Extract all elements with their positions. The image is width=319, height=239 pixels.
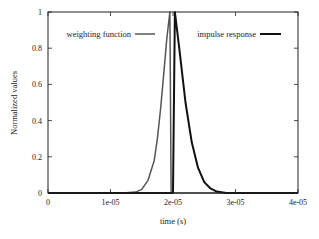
x-axis: 01e-052e-053e-054e-05 bbox=[46, 12, 307, 207]
x-tick-label: 1e-05 bbox=[101, 198, 119, 207]
chart: 01e-052e-053e-054e-05 00.20.40.60.81 wei… bbox=[0, 0, 319, 239]
y-tick-label: 0.4 bbox=[32, 117, 42, 126]
y-tick-label: 0.6 bbox=[32, 80, 42, 89]
y-tick-label: 1 bbox=[38, 8, 42, 17]
y-tick-label: 0 bbox=[38, 189, 42, 198]
legend-label-weighting-function: weighting function bbox=[67, 29, 132, 39]
legend-label-impulse-response: impulse response bbox=[197, 29, 256, 39]
plot-area bbox=[48, 12, 298, 193]
y-axis-label: Normalized values bbox=[9, 71, 19, 135]
x-axis-label: time (s) bbox=[160, 216, 186, 226]
x-tick-label: 4e-05 bbox=[289, 198, 307, 207]
y-tick-label: 0.8 bbox=[32, 44, 42, 53]
x-tick-label: 0 bbox=[46, 198, 50, 207]
y-tick-label: 0.2 bbox=[32, 153, 42, 162]
series-impulse-response bbox=[48, 12, 298, 193]
x-tick-label: 3e-05 bbox=[226, 198, 244, 207]
x-tick-label: 2e-05 bbox=[164, 198, 182, 207]
